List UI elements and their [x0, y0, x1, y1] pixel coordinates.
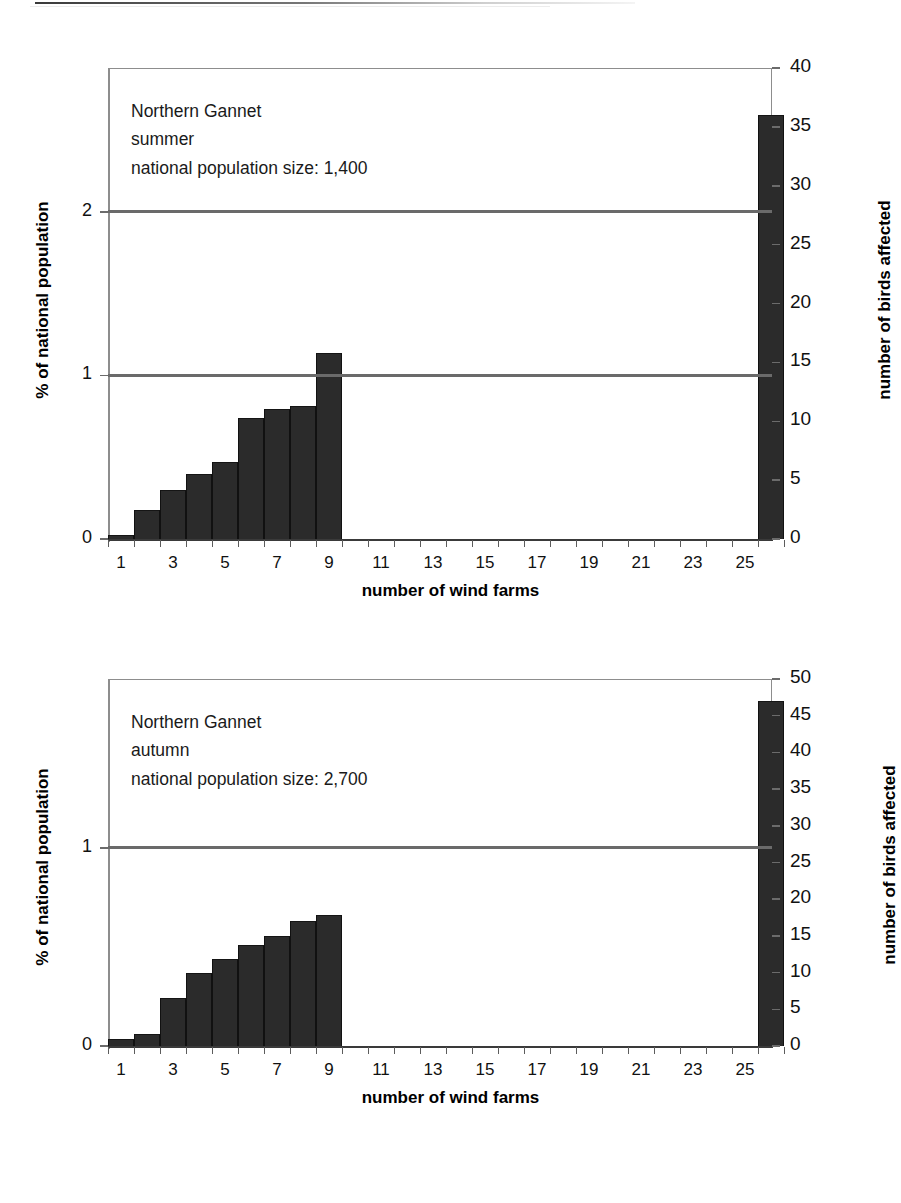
x-tick-20	[628, 1047, 629, 1054]
right-tick-45	[772, 715, 780, 717]
x-tick-25	[758, 1047, 759, 1054]
x-tick-label-23: 23	[673, 1060, 713, 1080]
x-tick-22	[680, 540, 681, 547]
x-tick-12	[420, 540, 421, 547]
x-tick-6	[264, 1047, 265, 1054]
x-tick-2	[160, 1047, 161, 1054]
right-tick-30	[772, 825, 780, 827]
bottom-axis-line-summer	[108, 539, 773, 541]
x-axis-title-summer: number of wind farms	[0, 581, 901, 601]
x-tick-label-7: 7	[257, 553, 297, 573]
right-tick-label-0: 0	[790, 526, 801, 548]
x-tick-12	[420, 1047, 421, 1054]
x-tick-label-9: 9	[309, 1060, 349, 1080]
chart-summer: Northern Gannet summer national populati…	[0, 0, 901, 615]
bar-wind-farms-5	[212, 959, 238, 1046]
right-tick-0	[772, 538, 780, 540]
left-axis-line-autumn	[108, 679, 110, 1049]
right-tick-label-35: 35	[790, 776, 811, 798]
x-tick-label-13: 13	[413, 553, 453, 573]
reference-line-1-percent	[108, 374, 772, 377]
annotation-summer: Northern Gannet summer national populati…	[131, 97, 367, 182]
x-tick-label-25: 25	[725, 1060, 765, 1080]
x-tick-0	[108, 540, 109, 547]
bar-wind-farms-26	[758, 701, 784, 1046]
bar-wind-farms-8	[290, 921, 316, 1046]
x-tick-label-5: 5	[205, 1060, 245, 1080]
bar-wind-farms-7	[264, 936, 290, 1046]
x-tick-7	[290, 1047, 291, 1054]
x-tick-26	[784, 1047, 785, 1054]
bar-wind-farms-6	[238, 418, 264, 539]
x-tick-2	[160, 540, 161, 547]
right-axis-title-autumn: number of birds affected	[880, 750, 900, 980]
x-tick-11	[394, 1047, 395, 1054]
right-tick-label-0: 0	[790, 1033, 801, 1055]
left-tick-1	[100, 847, 108, 849]
annotation-population: national population size: 2,700	[131, 769, 367, 789]
x-tick-1	[134, 540, 135, 547]
left-tick-label-1: 1	[52, 836, 92, 857]
bar-wind-farms-6	[238, 945, 264, 1046]
x-tick-24	[732, 540, 733, 547]
x-tick-15	[498, 1047, 499, 1054]
right-tick-label-5: 5	[790, 467, 801, 489]
left-axis-line-summer	[108, 68, 110, 542]
x-axis-title-autumn: number of wind farms	[0, 1088, 901, 1108]
x-tick-5	[238, 1047, 239, 1054]
x-tick-label-11: 11	[361, 1060, 401, 1080]
right-tick-label-10: 10	[790, 960, 811, 982]
right-tick-25	[772, 244, 780, 246]
x-tick-9	[342, 1047, 343, 1054]
bar-wind-farms-3	[160, 490, 186, 539]
right-tick-label-40: 40	[790, 55, 811, 77]
left-axis-title-autumn: % of national population	[33, 757, 53, 977]
right-tick-30	[772, 185, 780, 187]
left-tick-1	[100, 375, 108, 377]
bar-wind-farms-4	[186, 973, 212, 1046]
annotation-season: autumn	[131, 740, 189, 760]
chart-autumn: Northern Gannet autumn national populati…	[0, 612, 901, 1203]
right-tick-label-15: 15	[790, 923, 811, 945]
x-tick-label-21: 21	[621, 553, 661, 573]
right-tick-5	[772, 1009, 780, 1011]
x-tick-label-25: 25	[725, 553, 765, 573]
x-tick-16	[524, 1047, 525, 1054]
x-tick-8	[316, 1047, 317, 1054]
right-tick-20	[772, 303, 780, 305]
right-tick-35	[772, 788, 780, 790]
right-tick-15	[772, 935, 780, 937]
bar-wind-farms-26	[758, 115, 784, 539]
x-tick-label-15: 15	[465, 1060, 505, 1080]
right-tick-label-30: 30	[790, 813, 811, 835]
x-tick-3	[186, 1047, 187, 1054]
right-tick-20	[772, 898, 780, 900]
x-tick-10	[368, 1047, 369, 1054]
reference-line-1-percent	[108, 846, 772, 849]
left-tick-0	[100, 538, 108, 540]
bar-wind-farms-4	[186, 474, 212, 539]
x-tick-19	[602, 1047, 603, 1054]
left-tick-0	[100, 1045, 108, 1047]
x-tick-0	[108, 1047, 109, 1054]
annotation-species: Northern Gannet	[131, 712, 261, 732]
annotation-autumn: Northern Gannet autumn national populati…	[131, 708, 367, 793]
x-tick-label-15: 15	[465, 553, 505, 573]
right-axis-title-summer: number of birds affected	[875, 185, 895, 415]
left-tick-2	[100, 211, 108, 213]
x-tick-18	[576, 540, 577, 547]
x-tick-21	[654, 1047, 655, 1054]
x-tick-label-1: 1	[101, 1060, 141, 1080]
left-tick-label-2: 2	[52, 200, 92, 221]
bar-wind-farms-9	[316, 353, 342, 539]
right-tick-label-30: 30	[790, 173, 811, 195]
bar-wind-farms-5	[212, 462, 238, 539]
bar-wind-farms-7	[264, 409, 290, 539]
x-tick-23	[706, 540, 707, 547]
reference-line-2-percent	[108, 210, 772, 213]
x-tick-8	[316, 540, 317, 547]
annotation-species: Northern Gannet	[131, 101, 261, 121]
x-tick-label-19: 19	[569, 1060, 609, 1080]
x-tick-15	[498, 540, 499, 547]
x-tick-21	[654, 540, 655, 547]
